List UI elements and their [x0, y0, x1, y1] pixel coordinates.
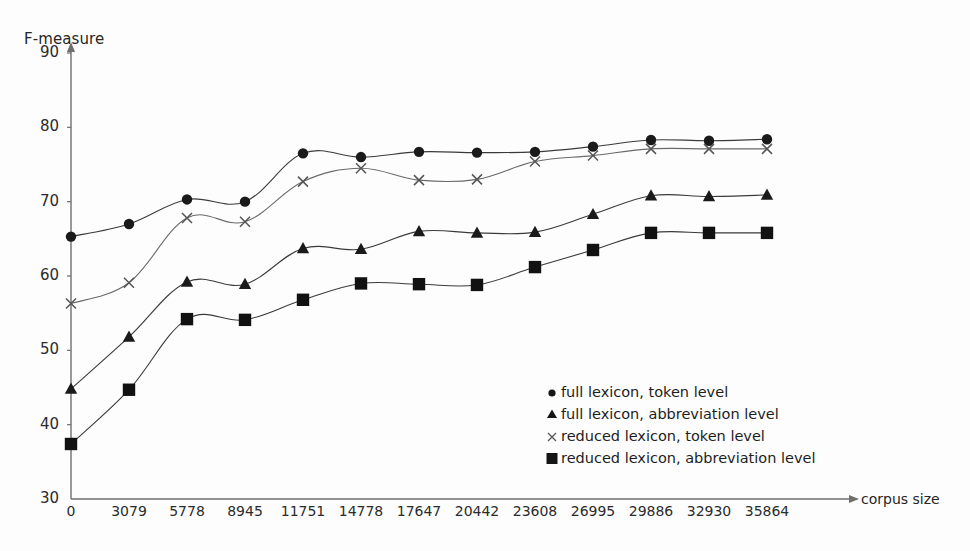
legend-item-3: reduced lexicon, abbreviation level	[545, 447, 845, 469]
chart-figure: F-measure corpus size 30405060708090 030…	[0, 0, 970, 551]
circle-marker-icon	[545, 384, 560, 400]
legend-item-1: full lexicon, abbreviation level	[545, 403, 845, 425]
series-1	[65, 189, 773, 394]
legend-item-2: reduced lexicon, token level	[545, 425, 845, 447]
square-marker-icon	[545, 450, 560, 466]
chart-legend: full lexicon, token levelfull lexicon, a…	[545, 381, 845, 469]
legend-item-label: full lexicon, abbreviation level	[561, 406, 779, 422]
legend-item-0: full lexicon, token level	[545, 381, 845, 403]
triangle-marker-icon	[545, 406, 560, 422]
cross-marker-icon	[545, 428, 560, 444]
legend-item-label: reduced lexicon, token level	[561, 428, 765, 444]
legend-item-label: reduced lexicon, abbreviation level	[561, 450, 815, 466]
legend-item-label: full lexicon, token level	[561, 384, 728, 400]
